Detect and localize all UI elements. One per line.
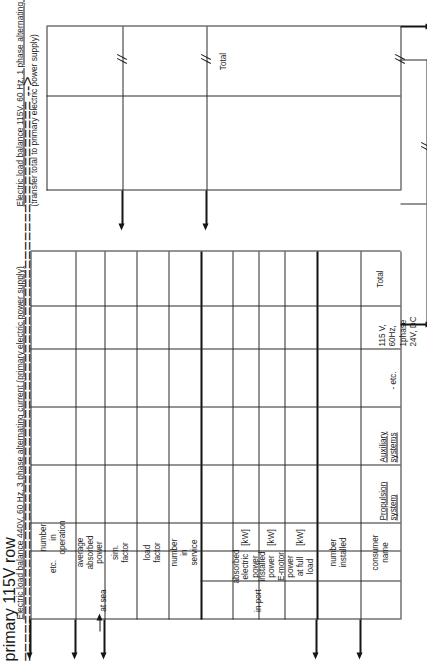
col-header-consumer-name: consumer name <box>360 523 400 581</box>
col-header-power-full-load: power at full load <box>284 551 316 581</box>
arrow-up <box>205 190 206 224</box>
row-label-total: Total <box>360 251 400 306</box>
col-header-port-load-factor: load factor <box>136 523 168 581</box>
arrow-up <box>74 619 75 653</box>
arrow-up <box>315 619 316 653</box>
row-dots-auxiliary: . . . <box>388 433 397 462</box>
group-header-in-port: in port <box>200 581 316 619</box>
col-unit-power-full-load: [kW] <box>284 523 316 551</box>
table-rule <box>30 305 400 306</box>
group-header-at-sea: at sea <box>30 581 175 619</box>
row-label-etc: - etc. <box>388 349 398 389</box>
table-rule <box>46 189 400 190</box>
col-header-port-average-absorbed-power: average absorbed power <box>75 523 104 581</box>
table-rule <box>30 464 400 465</box>
secondary-table-subtitle: (transfer total to primary electric powe… <box>28 34 38 206</box>
col-header-number-installed: number installed <box>316 523 360 581</box>
primary-table-title: Electric load balance 440V, 60 Hz, 3 pha… <box>14 266 24 619</box>
col-header-sea-etc: etc. <box>30 551 75 581</box>
transfer-arrow <box>400 323 426 324</box>
arrow-up <box>103 619 104 653</box>
arrow-up <box>29 619 30 653</box>
col-header-port-number-in-service: number in service <box>168 523 200 581</box>
arrow-up <box>99 619 100 631</box>
col-unit-installed-power: [kW] <box>258 523 284 551</box>
rotated-sheet: Electric load balance 440V, 60 Hz, 3 pha… <box>0 0 427 661</box>
table-rule <box>30 250 400 251</box>
col-header-port-sim-factor: sim. factor <box>104 523 136 581</box>
col-header-installed-power: installed power E-motor <box>258 551 284 581</box>
arrow-up <box>121 190 122 224</box>
transfer-arrow <box>400 25 426 26</box>
col-unit-absorbed-power: [kW] <box>232 523 258 551</box>
transfer-connector <box>399 59 427 60</box>
col-header-sea-number-in-operation: number in operation <box>30 523 75 551</box>
table-rule <box>30 348 400 349</box>
secondary-table-title: Electric load balance 115V, 60 Hz, 1 pha… <box>14 0 24 206</box>
col-header-absorbed-power: absorbed electric power <box>232 551 258 581</box>
secondary-total-row-label: Total <box>46 26 400 96</box>
row-dots-propulsion: . . . <box>388 491 397 520</box>
table-rule <box>30 406 400 407</box>
worksheet: Electric load balance 440V, 60 Hz, 3 pha… <box>0 0 427 661</box>
transfer-connector <box>400 203 426 204</box>
arrow-up <box>359 619 360 653</box>
